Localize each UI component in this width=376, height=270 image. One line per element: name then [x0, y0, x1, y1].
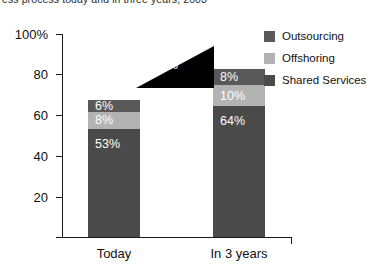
- legend-label-offshoring: Offshoring: [282, 52, 335, 64]
- bar-in-3-years: 8% 10% 64%: [213, 69, 265, 237]
- bar-today-value-outsourcing: 6%: [95, 100, 113, 112]
- bar-today-value-shared-services: 53%: [95, 138, 120, 150]
- legend-swatch-outsourcing: [264, 31, 275, 42]
- growth-wedge-label: 22%: [152, 57, 178, 72]
- x-axis-line: [62, 237, 292, 238]
- x-axis-end-tick: [291, 237, 292, 244]
- y-axis-label-20: 20: [0, 191, 48, 204]
- bar-in-3-years-value-offshoring: 10%: [220, 90, 245, 102]
- legend-item-offshoring: Offshoring: [264, 49, 366, 67]
- bar-in-3-years-segment-outsourcing: 8%: [213, 69, 265, 85]
- legend-swatch-shared-services: [264, 75, 275, 86]
- y-tick-60: [56, 115, 62, 116]
- y-axis-label-100: 100%: [0, 28, 48, 41]
- chart-container: ess process today and in three years, 20…: [0, 0, 376, 270]
- y-tick-80: [56, 74, 62, 75]
- legend-swatch-offshoring: [264, 53, 275, 64]
- bar-in-3-years-value-shared-services: 64%: [220, 115, 245, 127]
- bar-today-value-offshoring: 8%: [95, 114, 113, 126]
- y-tick-100: [56, 34, 62, 35]
- bar-today-segment-offshoring: 8%: [88, 112, 140, 128]
- chart-caption: ess process today and in three years, 20…: [2, 0, 302, 7]
- bar-today: 6% 8% 53%: [88, 100, 140, 237]
- y-tick-40: [56, 156, 62, 157]
- y-axis-label-40: 40: [0, 150, 48, 163]
- x-axis-label-in-3-years: In 3 years: [199, 246, 279, 261]
- x-axis-label-today: Today: [78, 246, 150, 261]
- bar-in-3-years-segment-offshoring: 10%: [213, 85, 265, 106]
- legend-item-outsourcing: Outsourcing: [264, 27, 366, 45]
- legend: Outsourcing Offshoring Shared Services: [264, 27, 366, 93]
- bar-today-segment-shared-services: 53%: [88, 129, 140, 237]
- y-tick-20: [56, 197, 62, 198]
- bar-in-3-years-segment-shared-services: 64%: [213, 106, 265, 237]
- y-axis-label-80: 80: [0, 68, 48, 81]
- legend-label-shared-services: Shared Services: [282, 74, 366, 86]
- bar-today-segment-outsourcing: 6%: [88, 100, 140, 112]
- y-axis-line: [62, 34, 63, 238]
- bar-in-3-years-value-outsourcing: 8%: [220, 71, 238, 83]
- legend-label-outsourcing: Outsourcing: [282, 30, 344, 42]
- legend-item-shared-services: Shared Services: [264, 71, 366, 89]
- y-axis-label-60: 60: [0, 109, 48, 122]
